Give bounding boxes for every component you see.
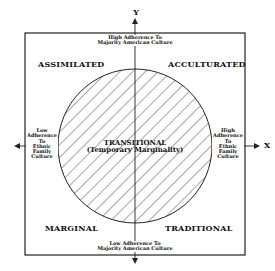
center-label: TRANSITIONAL (Temporary Marginality): [85, 139, 185, 154]
y-arrow-down: [132, 258, 138, 264]
quadrant-assimilated: ASSIMILATED: [38, 60, 98, 68]
x-arrow-right: [254, 143, 260, 149]
quadrant-acculturated: ACCULTURATED: [168, 60, 238, 68]
left-axis-label: Low Adherence To Ethnic Family Culture: [26, 128, 58, 160]
x-arrow-left: [14, 143, 20, 149]
top-axis-label: High Adherence To Majority American Cult…: [95, 35, 175, 46]
quadrant-traditional: TRADITIONAL: [165, 224, 227, 232]
quadrant-marginal: MARGINAL: [45, 224, 95, 232]
y-arrow-up: [132, 18, 138, 24]
bottom-axis-label: Low Adherence To Majority American Cultu…: [95, 241, 175, 252]
right-axis-label: High Adherence To Ethnic Family Culture: [212, 128, 244, 160]
y-axis-label: Y: [131, 8, 141, 16]
x-axis-label: X: [262, 141, 272, 149]
